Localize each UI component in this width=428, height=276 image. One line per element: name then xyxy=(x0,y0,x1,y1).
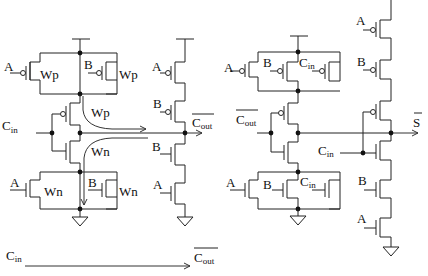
label-wn: Wn xyxy=(44,184,63,199)
label-wp: Wp xyxy=(40,67,59,82)
carry-circuit xyxy=(10,39,202,226)
ground-symbol-sum xyxy=(290,209,306,225)
label-cin: Cin xyxy=(318,143,334,159)
legend-cin: Cin xyxy=(6,248,22,264)
sum-pmos-cout xyxy=(284,91,298,133)
label-cout: Cout xyxy=(192,115,213,131)
label-b: B xyxy=(152,139,161,154)
node xyxy=(78,51,83,56)
label-a: A xyxy=(224,60,234,75)
sum-output-arrow xyxy=(390,130,418,136)
sum-pmos-b xyxy=(270,52,298,91)
vdd-symbol-sum xyxy=(290,36,308,52)
label-a: A xyxy=(356,13,366,28)
label-b: B xyxy=(263,55,272,70)
label-a: A xyxy=(357,211,367,226)
mirror-adder-diagram: A Wp B Wp Wp Cin Wn A Wn B Wn A B B A Co… xyxy=(0,0,428,276)
node xyxy=(50,131,55,136)
label-wn: Wn xyxy=(119,184,138,199)
node xyxy=(78,170,83,175)
label-wp: Wp xyxy=(119,67,138,82)
label-a: A xyxy=(10,175,20,190)
label-cin: Cin xyxy=(300,174,316,190)
label-wn: Wn xyxy=(91,144,110,159)
sum-nmos-cout xyxy=(271,133,298,172)
legend-arrow xyxy=(25,263,190,269)
label-wp: Wp xyxy=(91,105,110,120)
sum-nmos-b xyxy=(272,172,298,209)
nmos-b xyxy=(80,172,117,209)
label-a: A xyxy=(4,59,14,74)
label-b: B xyxy=(88,175,97,190)
label-b: B xyxy=(358,173,367,188)
sum-nmos-cin xyxy=(312,180,340,198)
label-cin: Cin xyxy=(299,55,315,71)
nmos-cin xyxy=(52,133,80,172)
label-b: B xyxy=(84,57,93,72)
ground-symbol-carry xyxy=(72,209,88,226)
label-b: B xyxy=(263,177,272,192)
label-cin: Cin xyxy=(2,118,18,135)
legend-cout: Cout xyxy=(194,250,215,266)
label-s: S xyxy=(413,115,420,130)
sum-pmos-cin xyxy=(312,62,340,81)
label-b: B xyxy=(153,96,162,111)
label-cout: Cout xyxy=(236,112,257,128)
carry-output-arrow xyxy=(185,130,202,136)
pmos-cin xyxy=(52,94,80,133)
sum-output-stack xyxy=(340,0,399,256)
circuit-schematic: A Wp B Wp Wp Cin Wn A Wn B Wn A B B A Co… xyxy=(0,0,428,276)
label-a: A xyxy=(152,59,162,74)
label-a: A xyxy=(226,175,236,190)
label-b: B xyxy=(357,54,366,69)
sum-circuit xyxy=(230,0,418,256)
label-a: A xyxy=(153,177,163,192)
